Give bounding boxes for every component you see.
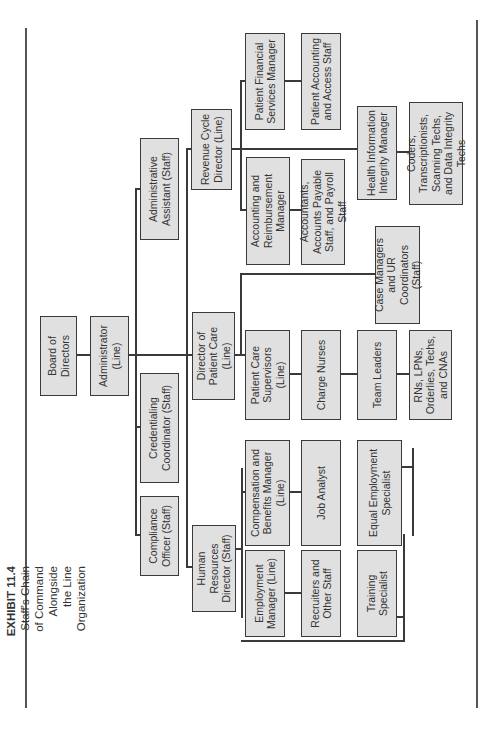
node-credentialing-coordinator: Credentialing Coordinator (Staff) bbox=[140, 373, 179, 483]
node-compliance-officer: Compliance Officer (Staff) bbox=[140, 496, 179, 576]
connector bbox=[240, 274, 242, 356]
node-director-of-patient-care: Director of Patient Care (Line) bbox=[192, 312, 235, 400]
org-chart: Board of Directors Administrator (Line) … bbox=[0, 0, 482, 736]
connector bbox=[240, 149, 357, 151]
connector bbox=[285, 593, 301, 595]
node-hr-director: Human Resources Director (Staff) bbox=[192, 525, 236, 612]
connector bbox=[290, 492, 301, 494]
connector bbox=[341, 374, 357, 376]
connector bbox=[240, 81, 242, 211]
connector bbox=[403, 534, 405, 642]
node-equal-employment-specialist: Equal Employment Specialist bbox=[357, 440, 402, 546]
connector bbox=[290, 374, 301, 376]
connector bbox=[397, 374, 409, 376]
node-training-specialist: Training Specialist bbox=[357, 550, 397, 637]
node-patient-accounting-access-staff: Patient Accounting and Access Staff bbox=[301, 33, 341, 130]
connector bbox=[241, 641, 404, 643]
connector bbox=[285, 81, 301, 83]
node-job-analyst: Job Analyst bbox=[301, 440, 341, 546]
node-charge-nurses: Charge Nurses bbox=[301, 330, 341, 420]
connector bbox=[412, 525, 413, 527]
node-administrative-assistant: Administrative Assistant (Staff) bbox=[140, 138, 179, 240]
connector bbox=[397, 617, 404, 619]
connector bbox=[402, 467, 413, 469]
node-team-leaders: Team Leaders bbox=[357, 330, 397, 420]
connector bbox=[135, 189, 137, 536]
node-revenue-cycle-director: Revenue Cycle Director (Line) bbox=[191, 109, 232, 190]
node-health-information-integrity-manager: Health Information Integrity Manager bbox=[357, 106, 397, 200]
node-administrator: Administrator (Line) bbox=[90, 316, 129, 396]
node-patient-care-supervisors: Patient Care Supervisors (Line) bbox=[245, 330, 290, 420]
node-case-managers-ur-coordinators: Case Managers and UR Coordinators (Staff… bbox=[375, 226, 420, 324]
node-recruiters-other-staff: Recruiters and Other Staff bbox=[301, 550, 341, 637]
connector bbox=[412, 448, 414, 536]
connector bbox=[240, 274, 375, 276]
node-employment-manager: Employment Manager (Line) bbox=[245, 550, 285, 637]
connector bbox=[186, 149, 188, 568]
node-coders-transcriptionists: Coders, Transcriptionists, Scanning Tech… bbox=[409, 102, 463, 205]
node-accountants-payable-payroll: Accountants, Accounts Payable Staff, and… bbox=[301, 159, 345, 265]
node-compensation-benefits-manager: Compensation and Benefits Manager (Line) bbox=[245, 440, 290, 546]
connector bbox=[241, 468, 243, 618]
connector bbox=[77, 355, 90, 357]
node-board-of-directors: Board of Directors bbox=[40, 316, 77, 396]
node-rns-lpns-orderlies: RNs, LPNs, Orderlies, Techs, and CNAs bbox=[409, 330, 452, 420]
node-patient-financial-services-manager: Patient Financial Services Manager bbox=[245, 33, 285, 130]
connector bbox=[129, 355, 192, 357]
node-accounting-reimbursement-manager: Accounting and Reimbursement Manager bbox=[246, 157, 290, 265]
